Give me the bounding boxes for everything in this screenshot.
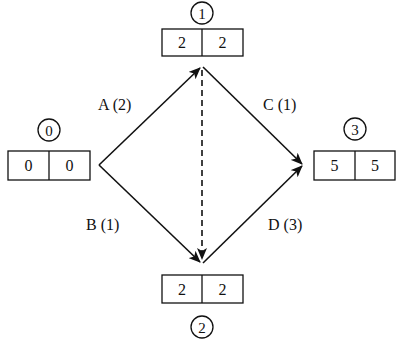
- node-0-late: 0: [66, 157, 74, 174]
- node-0-early: 0: [25, 157, 33, 174]
- edge-b-label: B (1): [86, 216, 119, 234]
- node-1-late: 2: [219, 34, 227, 51]
- node-1: 1 2 2: [162, 2, 243, 56]
- node-3-late: 5: [371, 157, 379, 174]
- edge-d-label: D (3): [268, 216, 302, 234]
- node-1-early: 2: [178, 34, 186, 51]
- edge-b: B (1): [86, 165, 200, 262]
- network-diagram: A (2) B (1) C (1) D (3) 0 0 0 1 2 2 2 2: [0, 0, 397, 343]
- edge-c-label: C (1): [263, 96, 296, 114]
- node-0-label: 0: [45, 123, 53, 139]
- node-3-early: 5: [331, 157, 339, 174]
- edge-c: C (1): [203, 67, 302, 164]
- edge-a: A (2): [98, 68, 200, 165]
- node-2-early: 2: [178, 281, 186, 298]
- node-1-label: 1: [198, 6, 206, 22]
- node-3: 3 5 5: [314, 118, 395, 180]
- edge-a-label: A (2): [98, 96, 131, 114]
- node-2-label: 2: [198, 320, 206, 336]
- node-2: 2 2 2: [162, 275, 243, 338]
- node-0: 0 0 0: [8, 119, 90, 180]
- node-3-label: 3: [351, 122, 359, 138]
- edge-d: D (3): [203, 166, 302, 263]
- node-2-late: 2: [219, 281, 227, 298]
